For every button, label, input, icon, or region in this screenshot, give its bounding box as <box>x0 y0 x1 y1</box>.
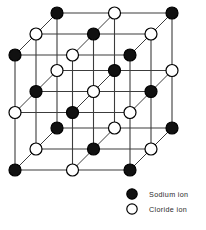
chloride-ion <box>88 86 100 98</box>
sodium-ion <box>88 28 100 40</box>
sodium-ion <box>51 122 63 134</box>
chloride-ion <box>109 122 121 134</box>
nacl-lattice-figure: Sodium ionCloride ion <box>0 0 206 230</box>
chloride-ion <box>124 107 136 119</box>
chloride-ion <box>67 164 79 176</box>
sodium-ion <box>88 143 100 155</box>
sodium-ion <box>9 164 21 176</box>
sodium-ion <box>109 65 121 77</box>
filled-circle-marker <box>127 189 137 199</box>
lattice-ions <box>9 7 178 176</box>
sodium-ion <box>67 107 79 119</box>
legend-label-sodium: Sodium ion <box>149 190 188 199</box>
chloride-ion <box>9 107 21 119</box>
sodium-ion <box>9 49 21 61</box>
sodium-ion <box>124 164 136 176</box>
chloride-ion <box>166 65 178 77</box>
sodium-ion <box>124 49 136 61</box>
chloride-ion <box>51 65 63 77</box>
legend-label-chloride: Cloride ion <box>149 205 187 214</box>
chloride-ion <box>30 143 42 155</box>
sodium-ion <box>51 7 63 19</box>
sodium-ion <box>145 86 157 98</box>
sodium-ion <box>30 86 42 98</box>
chloride-ion <box>145 143 157 155</box>
sodium-ion <box>166 7 178 19</box>
hollow-circle-marker <box>127 204 137 214</box>
chloride-ion <box>30 28 42 40</box>
sodium-ion <box>166 122 178 134</box>
chloride-ion <box>109 7 121 19</box>
chloride-ion <box>67 49 79 61</box>
chloride-ion <box>145 28 157 40</box>
